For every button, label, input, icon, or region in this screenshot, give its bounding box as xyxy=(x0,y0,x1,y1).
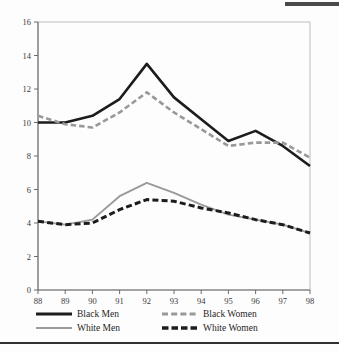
x-tick-label: 90 xyxy=(88,296,97,306)
y-tick-label: 12 xyxy=(23,84,32,94)
line-chart: 0246810121416 8889909192939495969798 Bla… xyxy=(0,0,339,353)
x-tick-label: 92 xyxy=(143,296,152,306)
x-tick-label: 91 xyxy=(115,296,124,306)
x-tick-label: 93 xyxy=(170,296,179,306)
x-tick-label: 98 xyxy=(306,296,315,306)
x-tick-label: 89 xyxy=(61,296,70,306)
x-tick-label: 94 xyxy=(197,296,206,306)
y-tick-label: 0 xyxy=(27,285,31,295)
y-tick-label: 14 xyxy=(23,51,32,61)
y-tick-label: 6 xyxy=(27,185,31,195)
series-line-white-women xyxy=(38,200,310,234)
series-lines xyxy=(38,64,310,233)
legend-label-black-women: Black Women xyxy=(203,309,257,319)
y-tick-label: 8 xyxy=(27,151,31,161)
y-tick-label: 2 xyxy=(27,252,31,262)
series-line-white-men xyxy=(38,183,310,233)
x-tick-label: 97 xyxy=(279,296,288,306)
x-axis-ticks: 8889909192939495969798 xyxy=(34,290,315,306)
legend-label-white-men: White Men xyxy=(77,323,120,333)
y-tick-label: 4 xyxy=(27,218,32,228)
y-axis-ticks: 0246810121416 xyxy=(23,17,39,295)
series-line-black-women xyxy=(38,92,310,157)
figure-container: 0246810121416 8889909192939495969798 Bla… xyxy=(0,0,339,353)
y-tick-label: 10 xyxy=(23,118,32,128)
y-tick-label: 16 xyxy=(23,17,32,27)
x-tick-label: 96 xyxy=(251,296,260,306)
x-tick-label: 88 xyxy=(34,296,43,306)
legend-label-black-men: Black Men xyxy=(77,309,119,319)
chart-legend: Black MenBlack WomenWhite MenWhite Women xyxy=(36,309,258,333)
legend-label-white-women: White Women xyxy=(203,323,258,333)
plot-frame xyxy=(38,22,310,290)
x-tick-label: 95 xyxy=(224,296,233,306)
series-line-black-men xyxy=(38,64,310,166)
